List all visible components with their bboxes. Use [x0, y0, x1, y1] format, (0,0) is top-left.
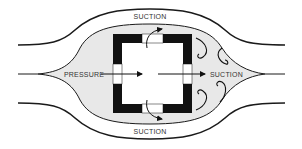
- label-pressure: PRESSURE: [64, 71, 104, 78]
- label-right-suction: SUCTION: [210, 71, 243, 78]
- window-top: [142, 34, 163, 43]
- label-top-suction: SUCTION: [134, 13, 167, 20]
- airflow-diagram: SUCTION SUCTION PRESSURE SUCTION: [0, 0, 302, 149]
- label-bottom-suction: SUCTION: [134, 128, 167, 135]
- window-bottom: [142, 104, 163, 113]
